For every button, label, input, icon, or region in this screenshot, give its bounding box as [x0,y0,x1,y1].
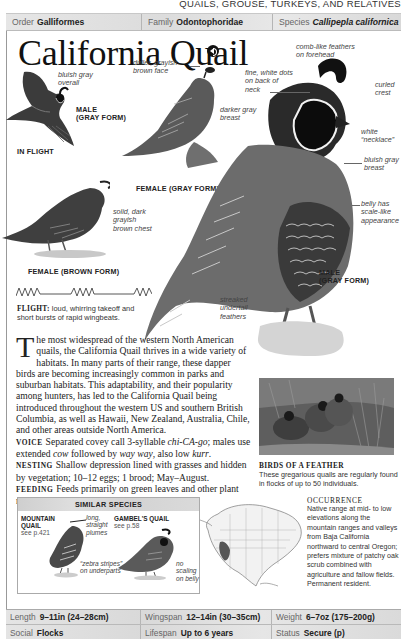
stats-row-2: Social Flocks Lifespan Up to 6 years Sta… [6,625,401,639]
family-cell: Family Odontophoridae [142,14,273,30]
lifespan-cell: Lifespan Up to 6 years [141,625,272,639]
status-value: Secure (p) [304,628,345,638]
leader-line [352,205,360,206]
species-value: Callipepla californica [313,17,399,27]
length-cell: Length 9–11in (24–28cm) [6,610,141,624]
annotation-scaly-belly: belly has scale-like appearance [361,200,401,225]
stats-row-1: Length 9–11in (24–28cm) Wingspan 12–14in… [6,610,401,625]
family-label: Family [148,17,173,27]
photo-caption-title: BIRDS OF A FEATHER [259,461,344,470]
order-label: Order [12,17,34,27]
occurrence-text: Native range at mid- to low elevations a… [307,505,401,590]
order-value: Galliformes [37,17,84,27]
wingspan-label: Wingspan [145,612,182,622]
lifespan-value: Up to 6 years [181,628,234,638]
similar-species-heading: SIMILAR SPECIES [18,498,199,511]
annotation-bluish-gray-overall: bluish gray overall [58,71,102,88]
running-head: QUAILS, GROUSE, TURKEYS, AND RELATIVES [179,0,401,10]
intro-paragraph: he most widespread of the western North … [16,334,250,435]
nesting-label: NESTING [16,461,53,470]
gambels-quail-illustration [118,528,180,580]
order-cell: Order Galliformes [6,14,142,30]
length-label: Length [10,612,36,622]
flock-photo [259,378,394,455]
leader-line [344,163,362,164]
flight-pattern-diagram [16,286,152,300]
annotation-white-dots: fine, white dots on back of neck [245,69,293,94]
status-cell: Status Secure (p) [272,625,401,639]
caption-in-flight: IN FLIGHT [17,148,54,157]
wingspan-value: 12–14in (30–35cm) [186,612,260,622]
annotation-white-necklace: white “necklace” [361,128,401,145]
annotation-undertail: streaked undertail feathers [220,296,256,321]
leader-line [270,92,310,93]
species-description: The most widespread of the western North… [16,334,252,506]
weight-label: Weight [276,612,302,622]
stats-bar: Length 9–11in (24–28cm) Wingspan 12–14in… [6,609,401,639]
flight-description: FLIGHT: loud, whirring takeoff and short… [17,304,147,322]
weight-cell: Weight 6–7oz (175–200g) [272,610,401,624]
lifespan-label: Lifespan [145,628,177,638]
annotation-curled-crest: curled crest [375,81,401,98]
family-value: Odontophoridae [176,17,243,27]
occurrence-title: OCCURRENCE [307,496,363,505]
range-map [200,500,308,592]
feeding-label: FEEDING [16,485,53,494]
mountain-quail-illustration [46,518,96,578]
female-brown-form-illustration [0,178,110,258]
weight-value: 6–7oz (175–200g) [306,612,375,622]
social-value: Flocks [37,628,64,638]
annotation-bluish-breast: bluish gray breast [364,156,401,173]
photo-caption-text: These gregarious quails are regularly fo… [259,470,399,488]
quail-flock-image [259,378,394,455]
voice-label: VOICE [16,438,43,447]
social-label: Social [10,628,33,638]
flight-label: FLIGHT: [17,304,50,313]
drop-cap: T [16,335,34,359]
nesting-section: NESTINGShallow depression lined with gra… [16,459,252,483]
social-cell: Social Flocks [6,625,141,639]
caption-male-gray-2: (GRAY FORM) [319,277,369,286]
annotation-comb-feathers: comb-like feathers on forehead [296,43,356,60]
species-label: Species [279,17,310,27]
wingspan-cell: Wingspan 12–14in (30–35cm) [141,610,272,624]
caption-female-brown: FEMALE (BROWN FORM) [28,268,119,277]
voice-section: VOICESeparated covey call 3-syllable chi… [16,436,252,460]
taxonomy-bar: Order Galliformes Family Odontophoridae … [6,13,401,31]
status-label: Status [276,628,300,638]
similar-species-box: SIMILAR SPECIES MOUNTAIN QUAIL see p.421… [17,497,200,594]
species-cell: Species Callipepla californica [273,14,401,30]
length-value: 9–11in (24–28cm) [40,612,109,622]
